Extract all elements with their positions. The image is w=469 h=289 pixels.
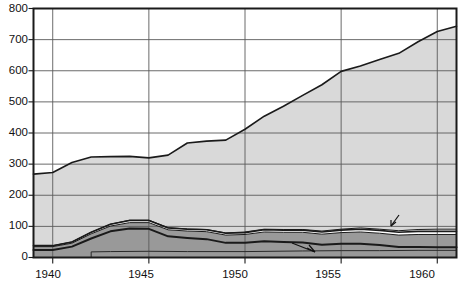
chart-canvas (0, 0, 469, 289)
transport-volume-area-chart: 800 700 600 500 400 300 200 100 0 1940 1… (0, 0, 469, 289)
